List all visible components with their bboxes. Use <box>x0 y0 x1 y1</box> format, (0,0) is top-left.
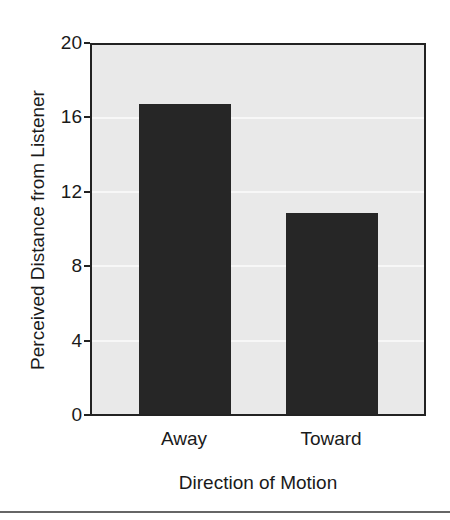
ytick-mark-20 <box>84 42 90 44</box>
ytick-mark-4 <box>84 340 90 342</box>
ytick-mark-0 <box>84 414 90 416</box>
plot-area <box>90 43 426 416</box>
bar-toward <box>286 213 378 414</box>
xtick-label-away: Away <box>161 428 207 450</box>
ytick-mark-8 <box>84 265 90 267</box>
bottom-divider <box>0 511 450 513</box>
xtick-label-toward: Toward <box>300 428 361 450</box>
ytick-label-12: 12 <box>61 182 82 202</box>
ytick-mark-16 <box>84 116 90 118</box>
ytick-label-8: 8 <box>71 256 82 276</box>
x-axis-title: Direction of Motion <box>179 472 337 494</box>
ytick-label-16: 16 <box>61 107 82 127</box>
ytick-label-20: 20 <box>61 33 82 53</box>
bar-away <box>139 104 231 414</box>
y-axis-title: Perceived Distance from Listener <box>27 90 49 370</box>
ytick-label-4: 4 <box>71 331 82 351</box>
ytick-mark-12 <box>84 191 90 193</box>
ytick-label-0: 0 <box>71 405 82 425</box>
